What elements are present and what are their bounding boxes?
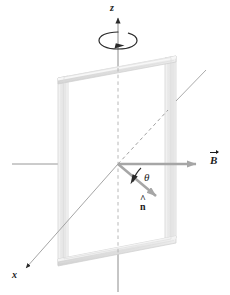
normal-vector-label-text: n	[140, 202, 146, 212]
diagram-canvas	[0, 0, 230, 295]
normal-vector-label: n	[140, 202, 146, 212]
b-field-label-text: B	[210, 155, 217, 166]
y-axis-solid-segment	[176, 70, 206, 101]
z-axis-label: z	[110, 3, 114, 13]
rectangular-loop-frame	[58, 56, 176, 266]
physics-diagram-figure: z x B θ n	[0, 0, 230, 295]
theta-angle-label: θ	[144, 172, 149, 183]
x-axis-label: x	[12, 270, 17, 280]
b-field-label: B	[210, 155, 217, 166]
